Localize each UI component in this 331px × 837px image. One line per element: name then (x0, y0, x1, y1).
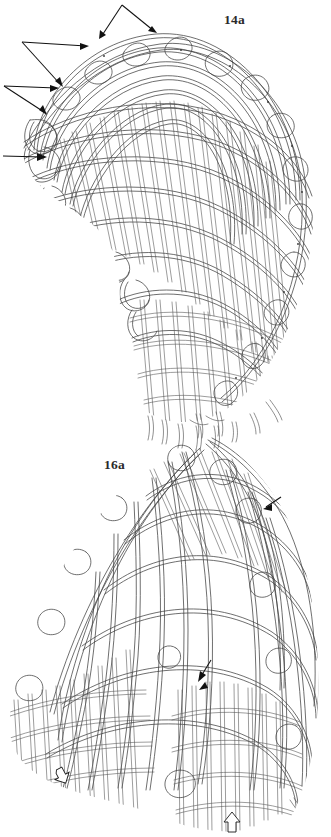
figure-14a (22, 34, 316, 450)
fig16-diagonal-cords (62, 452, 307, 792)
annotation-hollow-arrow-bottom-center (224, 812, 240, 832)
annotation-double-arrow-top (99, 5, 157, 39)
figure-plate: .f { fill:none; stroke:#3f3f3f; stroke-w… (0, 0, 331, 837)
fig16-rim-cords (50, 438, 319, 742)
fig16-top-stray-fibres (190, 412, 224, 438)
annotation-solid-arrowhead-center (198, 660, 211, 690)
basketry-drawing-svg: .f { fill:none; stroke:#3f3f3f; stroke-w… (0, 0, 331, 837)
figure-label-14a: 14a (224, 12, 245, 28)
figure-label-16a: 16a (104, 457, 125, 473)
fig16-loose-fibre-ends (290, 798, 316, 834)
fig14-loose-fibre-ends (148, 400, 282, 450)
annotation-hollow-arrow-bottom-left (51, 765, 73, 787)
fig14-rim-braid (24, 37, 312, 405)
